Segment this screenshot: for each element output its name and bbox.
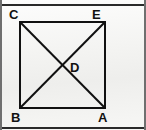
vertex-label-a: A [98,111,107,124]
vertex-label-b: B [11,111,20,124]
vertex-label-d: D [70,61,79,74]
vertex-label-e: E [92,8,101,21]
figure-canvas: C E B A D [0,0,146,130]
vertex-label-c: C [9,8,18,21]
